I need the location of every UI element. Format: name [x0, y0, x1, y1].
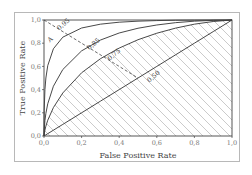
y-tick-label: 0,0	[31, 132, 41, 140]
hatch-line	[0, 20, 77, 136]
hatch-line	[249, 20, 252, 136]
auc-label: 0,85	[85, 36, 101, 51]
hatched-region	[0, 20, 252, 136]
roc-chart: 0,00,20,40,60,81,00,00,20,40,60,81,0 A0,…	[0, 0, 252, 175]
hatch-line	[24, 20, 140, 136]
hatch-line	[0, 20, 14, 136]
hatch-line	[0, 20, 32, 136]
x-tick-label: 0,8	[189, 139, 199, 147]
x-tick-label: 1,0	[227, 139, 237, 147]
y-tick-label: 1,0	[31, 16, 41, 24]
hatch-line	[150, 20, 252, 136]
y-tick-label: 0,2	[31, 109, 41, 117]
y-axis-title: True Positive Rate	[18, 40, 27, 115]
point-a-label: A	[45, 35, 55, 45]
x-tick-label: 0,6	[152, 139, 162, 147]
hatch-line	[204, 20, 252, 136]
hatch-line	[177, 20, 252, 136]
y-tick-label: 0,6	[31, 63, 41, 71]
y-tick-label: 0,4	[31, 86, 41, 94]
x-tick-label: 0,4	[114, 139, 124, 147]
auc-label: 0,75	[106, 47, 122, 62]
hatch-line	[0, 20, 104, 136]
hatch-line	[0, 20, 86, 136]
hatch-line	[213, 20, 252, 136]
x-axis-title: False Positive Rate	[100, 151, 177, 160]
x-tick-label: 0,2	[76, 139, 86, 147]
y-tick-label: 0,8	[31, 39, 41, 47]
hatch-line	[231, 20, 252, 136]
auc-label: 0,95	[55, 17, 71, 32]
hatch-line	[186, 20, 252, 136]
hatch-line	[222, 20, 252, 136]
auc-label: 0,50	[145, 69, 161, 84]
hatch-line	[159, 20, 252, 136]
hatch-line	[0, 20, 5, 136]
hatch-line	[240, 20, 252, 136]
